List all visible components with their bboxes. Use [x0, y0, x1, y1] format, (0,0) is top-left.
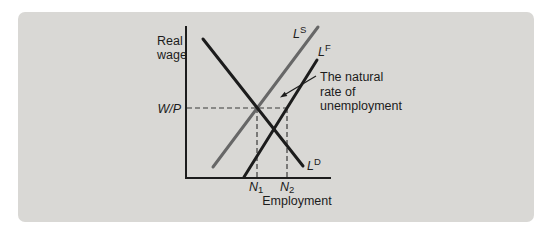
x-axis-label: Employment: [262, 194, 332, 208]
figure-panel: [18, 12, 534, 222]
figure-stage: Realwage W/P LS LF LD N1 N2 Employment T…: [0, 0, 548, 238]
labor-market-diagram: Realwage W/P LS LF LD N1 N2 Employment T…: [0, 0, 548, 238]
y-axis-label: Realwage: [156, 34, 187, 62]
real-wage-marker-label: W/P: [157, 102, 181, 116]
